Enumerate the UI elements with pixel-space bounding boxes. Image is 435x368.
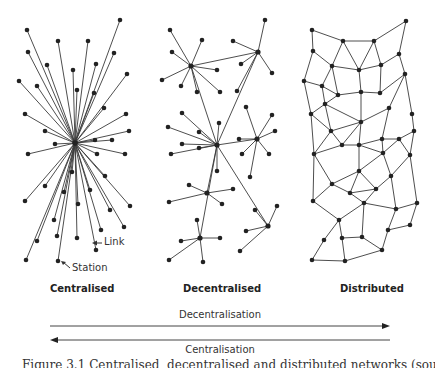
link-edge: [314, 145, 342, 154]
station-node: [362, 201, 367, 206]
figure-caption: Figure 3.1 Centralised, decentralised an…: [22, 358, 435, 368]
station-node: [341, 39, 346, 44]
link-edge: [217, 52, 258, 145]
station-node: [408, 153, 413, 158]
station-node: [180, 142, 185, 147]
station-node: [311, 49, 316, 54]
link-edge: [47, 65, 75, 143]
station-node: [235, 89, 240, 94]
centralisation-label: Centralisation: [185, 344, 255, 355]
station-node: [397, 52, 402, 57]
station-node: [35, 84, 40, 89]
link-edge: [405, 74, 412, 114]
decentralised-label: Decentralised: [183, 283, 261, 294]
link-edge: [382, 108, 389, 139]
station-node: [112, 51, 117, 56]
station-node: [167, 258, 172, 263]
station-node: [108, 208, 113, 213]
link-edge: [255, 210, 268, 226]
link-edge: [362, 203, 364, 237]
link-edge: [27, 30, 75, 143]
station-node: [397, 137, 402, 142]
station-node: [387, 106, 392, 111]
station-node: [360, 235, 365, 240]
link-edge: [383, 153, 391, 176]
station-node: [94, 62, 99, 67]
station-node: [320, 84, 325, 89]
link-edge: [168, 127, 217, 145]
station-node: [263, 18, 268, 23]
station-node: [24, 258, 29, 263]
station-node: [374, 187, 379, 192]
hub-node: [204, 190, 209, 195]
station-node: [43, 184, 48, 189]
station-node: [23, 112, 28, 117]
station-node: [270, 113, 275, 118]
station-node: [95, 152, 100, 157]
link-edge: [331, 131, 342, 145]
station-node: [26, 50, 31, 55]
hub-node: [265, 223, 270, 228]
link-edge: [312, 240, 324, 260]
station-node: [93, 138, 98, 143]
station-node: [179, 84, 184, 89]
link-edge: [26, 143, 75, 260]
link-edge: [237, 52, 258, 91]
link-edge: [359, 65, 381, 70]
link-edge: [382, 230, 388, 250]
distributed-label: Distributed: [340, 283, 404, 294]
link-edge: [57, 143, 75, 236]
station-node: [127, 129, 132, 134]
station-node: [231, 187, 236, 192]
station-node: [122, 225, 127, 230]
station-node: [244, 229, 249, 234]
link-edge: [162, 66, 191, 80]
link-edge: [322, 86, 325, 104]
station-node: [56, 259, 61, 264]
station-node: [94, 248, 99, 253]
station-node: [323, 102, 328, 107]
station-node: [359, 90, 364, 95]
link-edge: [345, 250, 382, 261]
link-edge: [342, 238, 345, 261]
link-edge: [311, 114, 314, 154]
link-annotation: Link: [104, 236, 124, 247]
link-edge: [383, 139, 399, 153]
link-edge: [197, 220, 200, 238]
station-node: [169, 152, 174, 157]
station-node: [88, 188, 93, 193]
station-node: [75, 88, 80, 93]
link-edge: [217, 145, 268, 226]
station-node: [92, 91, 97, 96]
arrow-right-icon: [382, 323, 390, 329]
link-edge: [364, 189, 376, 203]
decentralisation-label: Decentralisation: [179, 309, 261, 320]
station-node: [302, 79, 307, 84]
link-edge: [332, 41, 343, 66]
link-edge: [380, 65, 381, 93]
station-node: [200, 38, 205, 43]
link-edge: [376, 176, 391, 189]
decentralised-network: [160, 18, 280, 265]
link-edge: [313, 184, 332, 201]
station-node: [237, 137, 242, 142]
station-node: [381, 151, 386, 156]
link-edge: [312, 30, 343, 41]
link-edge: [58, 41, 75, 143]
station-node: [23, 199, 28, 204]
link-edge: [322, 86, 338, 95]
link-edge: [189, 185, 207, 193]
link-edge: [359, 41, 374, 70]
link-edge: [388, 209, 396, 230]
station-node: [357, 169, 362, 174]
link-edge: [258, 20, 265, 52]
station-node: [337, 218, 342, 223]
station-node: [322, 238, 327, 243]
link-edge: [325, 95, 338, 104]
station-node: [357, 68, 362, 73]
station-node: [244, 105, 249, 110]
link-edge: [171, 145, 217, 154]
station-node: [273, 129, 278, 134]
link-edge: [311, 104, 325, 114]
station-node: [329, 129, 334, 134]
